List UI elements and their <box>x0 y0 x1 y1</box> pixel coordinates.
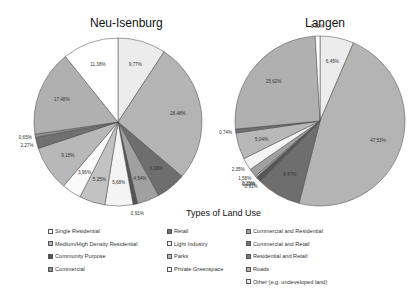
legend-swatch <box>246 241 251 246</box>
legend-title: Types of Land Use <box>186 208 261 218</box>
legend-item: Light Industry <box>167 241 208 247</box>
legend-label: Parks <box>174 253 188 259</box>
slice-label: 47,53% <box>370 138 386 143</box>
legend-item: Parks <box>167 253 188 259</box>
legend-label: Roads <box>253 266 269 272</box>
legend-swatch <box>246 279 251 284</box>
legend-swatch <box>48 267 53 272</box>
legend-item: Private Greenspace <box>167 266 223 272</box>
slice-label: 0,74% <box>219 130 232 135</box>
slice-label: 2,27% <box>20 143 33 148</box>
legend-swatch <box>167 241 172 246</box>
legend-label: Other (e.g. undeveloped land) <box>253 279 327 285</box>
slice-label: 2,35% <box>232 167 245 172</box>
slice-label: 5,68% <box>112 180 125 185</box>
slice-label: 25,62% <box>266 79 282 84</box>
slice-label: 8,47% <box>283 172 296 177</box>
legend-item: Single Residential <box>48 228 100 234</box>
legend-swatch <box>167 254 172 259</box>
legend-item: Medium/High Density Residential <box>48 241 137 247</box>
legend-swatch <box>246 254 251 259</box>
slice-label: 9,18% <box>61 153 74 158</box>
pie-charts: 9,77%28,48%6,08%4,54%0,91%5,68%5,25%3,96… <box>0 0 408 296</box>
legend-swatch <box>167 267 172 272</box>
legend-label: Medium/High Density Residential <box>55 241 137 247</box>
slice-label: 0,90% <box>311 24 324 29</box>
slice-label: 9,77% <box>129 62 142 67</box>
slice-label: 17,48% <box>54 97 70 102</box>
slice-label: 1,58% <box>238 176 251 181</box>
slice-label: 0,28% <box>242 181 255 186</box>
slice-label: 0,91% <box>131 211 144 216</box>
slice-label: 3,96% <box>78 170 91 175</box>
legend-label: Residential and Retail <box>253 253 307 259</box>
legend-swatch <box>48 229 53 234</box>
legend-swatch <box>246 229 251 234</box>
legend-label: Light Industry <box>174 241 208 247</box>
legend-label: Community Purpose <box>55 253 106 259</box>
slice-label: 28,48% <box>170 111 186 116</box>
slice-label: 0,65% <box>19 135 32 140</box>
legend-item: Commercial and Residential <box>246 228 323 234</box>
legend-item: Residential and Retail <box>246 253 307 259</box>
legend-item: Other (e.g. undeveloped land) <box>246 279 327 285</box>
legend-item: Commercial <box>48 266 85 272</box>
legend-swatch <box>167 229 172 234</box>
legend-item: Commercial and Retail <box>246 241 310 247</box>
legend-swatch <box>48 254 53 259</box>
legend-label: Commercial and Retail <box>253 241 310 247</box>
slice-label: 6,08% <box>150 166 163 171</box>
legend-label: Private Greenspace <box>174 266 223 272</box>
legend-item: Roads <box>246 266 269 272</box>
legend-swatch <box>48 241 53 246</box>
legend-label: Single Residential <box>55 228 100 234</box>
slice-label: 6,45% <box>326 59 339 64</box>
legend-label: Retail <box>174 228 188 234</box>
legend-swatch <box>246 267 251 272</box>
legend-label: Commercial and Residential <box>253 228 323 234</box>
legend-item: Retail <box>167 228 188 234</box>
slice-label: 4,54% <box>133 176 146 181</box>
slice-label: 5,04% <box>255 137 268 142</box>
legend-item: Community Purpose <box>48 253 106 259</box>
legend-label: Commercial <box>55 266 85 272</box>
slice-label: 11,38% <box>90 62 105 67</box>
slice-label: 5,25% <box>93 177 106 182</box>
